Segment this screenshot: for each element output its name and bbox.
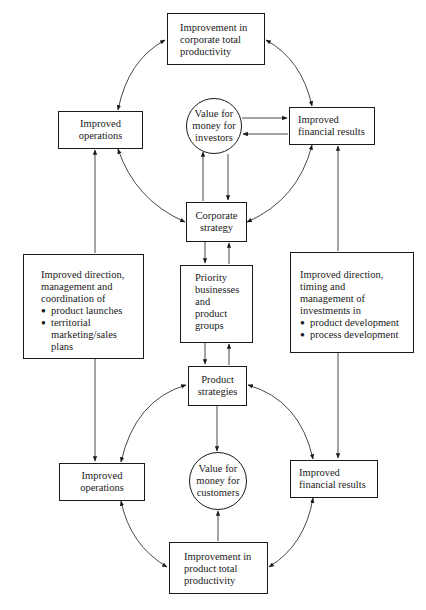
node-label: Value for money for investors	[192, 108, 235, 144]
node-label: Improved direction, management and coord…	[41, 269, 137, 305]
node-product-productivity: Improvement in product total productivit…	[169, 542, 268, 594]
node-label: Improved operations	[79, 118, 123, 142]
bullet-item: product development	[300, 317, 409, 329]
node-label: Improvement in corporate total productiv…	[180, 22, 258, 58]
arrow-fin-bottom-to-product-productivity	[269, 498, 313, 567]
node-value-customers: Value for money for customers	[189, 452, 247, 510]
node-label: Improvement in product total productivit…	[184, 551, 261, 587]
node-label: Improved financial results	[298, 114, 368, 138]
node-label: Product strategies	[198, 374, 238, 398]
node-label: Priority businesses and product groups	[195, 272, 248, 332]
node-corporate-strategy: Corporate strategy	[186, 202, 247, 242]
arrow-product-strategies-to-fin-bottom	[248, 385, 313, 459]
arrow-corporate-productivity-to-ops-top	[118, 40, 165, 110]
arrow-ops-top-to-corporate-strategy	[118, 149, 185, 222]
node-label: Improved operations	[80, 470, 124, 494]
node-right-direction: Improved direction, timing and managemen…	[290, 252, 414, 353]
arrow-fin-top-to-corporate-strategy	[247, 145, 312, 222]
bullet-item: process development	[300, 329, 409, 341]
bullet-item: territorial marketing/sales plans	[41, 317, 137, 353]
node-left-direction: Improved direction, management and coord…	[23, 254, 144, 359]
bullet-list: product development process development	[300, 317, 409, 341]
bullet-item: product launches	[41, 305, 137, 317]
arrow-ops-bottom-to-product-productivity	[121, 501, 167, 567]
node-label: Improved direction, timing and managemen…	[300, 269, 409, 317]
node-priority: Priority businesses and product groups	[180, 265, 253, 343]
arrow-product-strategies-to-ops-bottom	[121, 385, 186, 462]
node-fin-top: Improved financial results	[289, 107, 375, 145]
node-value-investors: Value for money for investors	[186, 98, 242, 154]
node-label: Corporate strategy	[196, 210, 238, 234]
node-label: Improved financial results	[299, 467, 371, 491]
node-label: Value for money for customers	[196, 463, 239, 499]
node-ops-bottom: Improved operations	[59, 463, 145, 501]
node-fin-bottom: Improved financial results	[290, 460, 378, 498]
node-product-strategies: Product strategies	[188, 366, 247, 406]
node-ops-top: Improved operations	[58, 111, 143, 149]
node-corporate-productivity: Improvement in corporate total productiv…	[167, 13, 265, 65]
arrow-corporate-productivity-to-fin-top	[266, 40, 312, 106]
bullet-list: product launches territorial marketing/s…	[41, 305, 137, 353]
